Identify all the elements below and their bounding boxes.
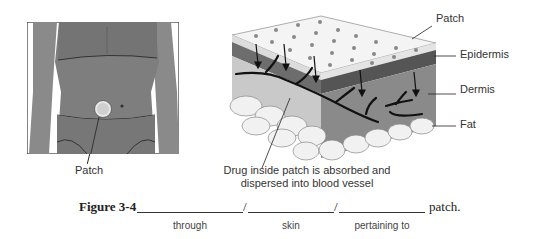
hint-skin: skin xyxy=(248,220,334,231)
hint-pertaining-to: pertaining to xyxy=(339,220,425,231)
skin-layers-icon xyxy=(226,8,456,168)
blank-pertaining-to[interactable] xyxy=(339,212,425,213)
torso-illustration xyxy=(27,22,179,154)
figure-suffix: patch. xyxy=(429,199,460,215)
label-patch: Patch xyxy=(436,12,464,24)
skin-cross-section xyxy=(226,8,456,168)
blank-skin[interactable] xyxy=(248,212,334,213)
caption-line-2: dispersed into blood vessel xyxy=(202,177,412,190)
left-patch-label: Patch xyxy=(75,164,103,176)
separator-1: / xyxy=(243,199,247,215)
caption-line-1: Drug inside patch is absorbed and xyxy=(202,164,412,177)
drug-absorption-caption: Drug inside patch is absorbed and disper… xyxy=(202,164,412,190)
separator-2: / xyxy=(334,199,338,215)
figure-label: Figure 3-4 xyxy=(79,199,136,215)
label-epidermis: Epidermis xyxy=(460,48,509,60)
torso-icon xyxy=(27,22,179,154)
label-dermis: Dermis xyxy=(460,83,495,95)
hint-through: through xyxy=(137,220,243,231)
label-fat: Fat xyxy=(460,118,476,130)
blank-through[interactable] xyxy=(137,212,243,213)
patch-leader-line xyxy=(87,154,90,164)
